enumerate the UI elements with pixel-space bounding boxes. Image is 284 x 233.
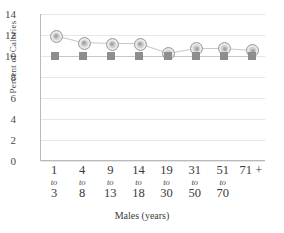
- y-axis-tick-label: 8: [0, 72, 16, 83]
- gridline: [41, 140, 265, 141]
- y-axis-tick-label: 10: [0, 51, 16, 62]
- data-point-circle-marker: [134, 38, 147, 51]
- gridline: [41, 77, 265, 78]
- chart-container: Percent of Calories 02468101214 1to34to8…: [0, 0, 284, 233]
- data-point-square-marker: [79, 52, 87, 60]
- x-tick-range-end: 70: [206, 187, 240, 200]
- data-point-circle-marker: [106, 38, 119, 51]
- x-tick-range-start: 71 +: [234, 164, 268, 177]
- gridline: [41, 35, 265, 36]
- gridline: [41, 119, 265, 120]
- x-axis-title: Males (years): [0, 210, 284, 221]
- y-axis-tick-label: 0: [0, 156, 16, 167]
- data-point-square-marker: [192, 52, 200, 60]
- gridline: [41, 161, 265, 162]
- x-axis-tick-label: 71 +: [234, 164, 268, 177]
- data-point-square-marker: [135, 52, 143, 60]
- data-point-circle-marker: [78, 37, 91, 50]
- data-point-square-marker: [220, 52, 228, 60]
- x-axis-tick-labels: 1to34to89to1314to1819to3031to5051to7071 …: [40, 164, 265, 206]
- data-point-square-marker: [107, 52, 115, 60]
- data-point-square-marker: [51, 52, 59, 60]
- y-axis-tick-label: 2: [0, 135, 16, 146]
- data-point-square-marker: [164, 52, 172, 60]
- y-axis-tick-label: 12: [0, 30, 16, 41]
- y-axis-tick-label: 14: [0, 9, 16, 20]
- y-axis-tick-label: 4: [0, 114, 16, 125]
- data-point-circle-marker: [50, 30, 63, 43]
- gridline: [41, 14, 265, 15]
- y-axis-tick-label: 6: [0, 93, 16, 104]
- data-point-square-marker: [248, 52, 256, 60]
- gridline: [41, 98, 265, 99]
- plot-area: [40, 14, 265, 161]
